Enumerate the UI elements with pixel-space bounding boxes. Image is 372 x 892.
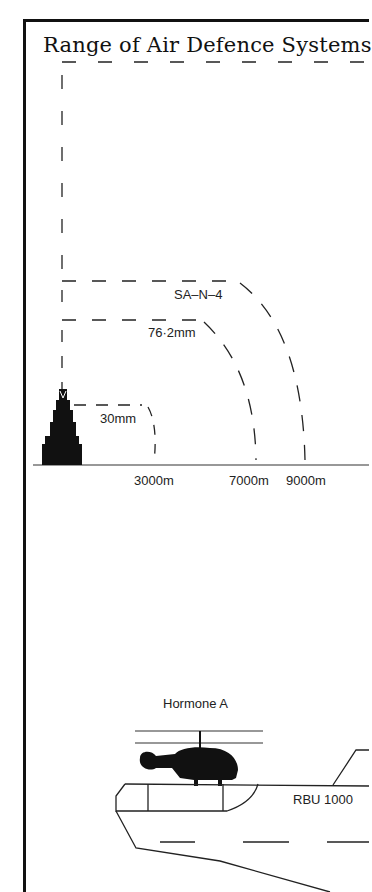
axis-label-7000m: 7000m xyxy=(229,473,269,488)
max-ceiling-envelope xyxy=(62,62,369,282)
label-76mm: 76·2mm xyxy=(148,325,196,340)
helicopter-icon xyxy=(135,731,263,786)
sa-n-4-envelope xyxy=(62,281,305,460)
axis-label-9000m: 9000m xyxy=(286,473,326,488)
ship-hull-outline xyxy=(116,750,369,892)
weapon-label: RBU 1000 xyxy=(293,792,353,807)
axis-label-3000m: 3000m xyxy=(134,473,174,488)
ship-silhouette-icon xyxy=(42,389,82,465)
label-sa-n-4: SA–N–4 xyxy=(174,287,222,302)
helicopter-label: Hormone A xyxy=(163,696,228,711)
76mm-envelope xyxy=(62,320,256,460)
label-30mm: 30mm xyxy=(100,411,136,426)
